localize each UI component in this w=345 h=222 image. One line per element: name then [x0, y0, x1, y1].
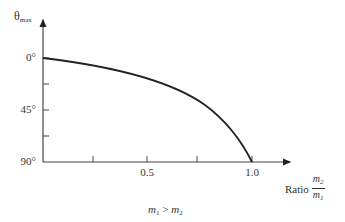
x-ticks: [93, 156, 252, 162]
y-tick-45: 45°: [2, 103, 36, 115]
x-tick-1.0: 1.0: [245, 166, 259, 178]
y-tick-90: 90°: [2, 155, 36, 167]
x-axis-label: Ratiom2m1: [285, 173, 325, 204]
y-tick-0: 0°: [2, 51, 36, 63]
y-axis-label: θmax: [14, 9, 32, 24]
ratio-fraction: m2m1: [312, 173, 325, 204]
caption: m1 > m2: [148, 203, 183, 217]
y-ticks: [43, 58, 49, 136]
theta-max-curve: [43, 58, 252, 162]
x-tick-0.5: 0.5: [140, 166, 154, 178]
